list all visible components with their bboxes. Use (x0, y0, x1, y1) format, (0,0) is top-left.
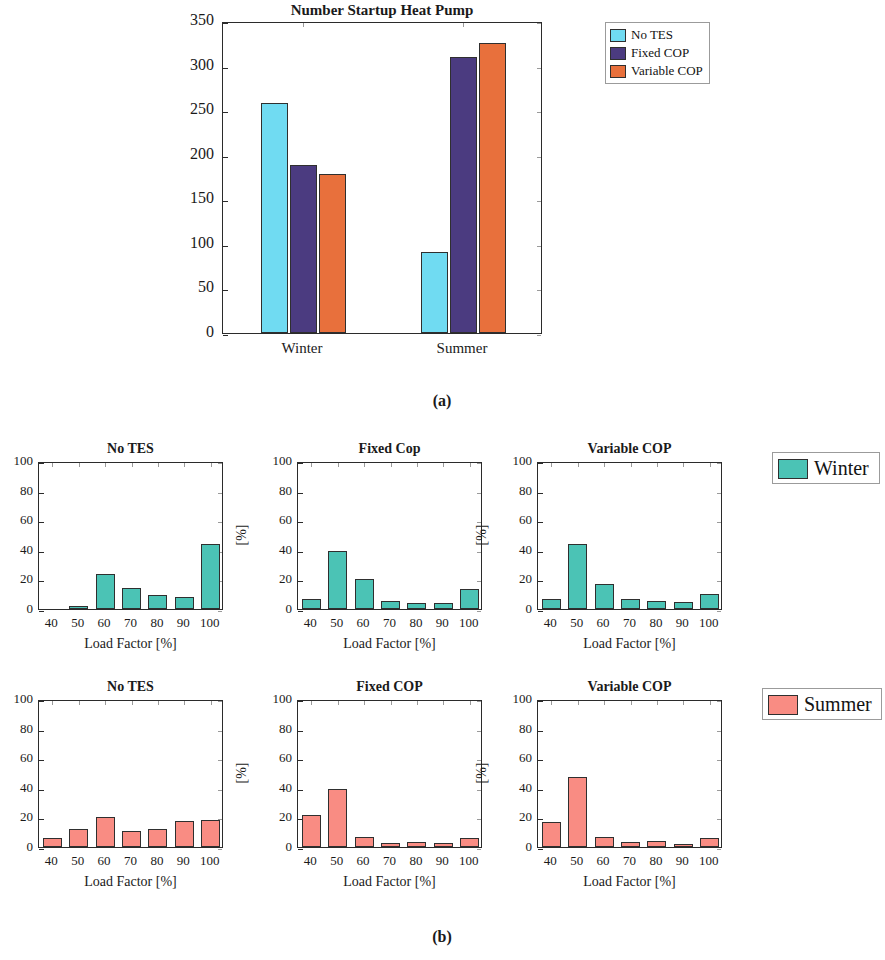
mini-ytick-mark-right (717, 522, 721, 523)
mini-xtick-mark (184, 701, 185, 705)
panel-a-ytick-mark (223, 112, 228, 113)
fixed-cop-color-swatch (610, 47, 626, 60)
panel-a-ytick-mark (223, 246, 228, 247)
mini-xtick-70: 70 (377, 615, 403, 631)
mini-xtick-60: 60 (590, 853, 616, 869)
mini-ytick-mark (39, 731, 44, 732)
panel-a-ytick-mark (223, 23, 228, 24)
mini-ytick-40: 40 (1, 542, 33, 558)
mini-xtick-mark (604, 463, 605, 467)
mini-xtick-mark (105, 701, 106, 705)
mini-xtick-mark (211, 701, 212, 705)
mini-xtick-50: 50 (65, 615, 91, 631)
mini-xlabel-summer-no-tes: Load Factor [%] (38, 874, 223, 890)
mini-ytick-80: 80 (500, 483, 532, 499)
mini-ylabel-summer-variable-cop: [%] (474, 743, 490, 803)
mini-ytick-mark-right (717, 790, 721, 791)
mini-xtick-100: 100 (197, 853, 223, 869)
mini-ytick-mark (298, 611, 303, 612)
mini-bar-winter-variable-cop-90 (674, 602, 693, 609)
mini-xtick-90: 90 (669, 615, 695, 631)
mini-ytick-mark-right (218, 760, 222, 761)
panel-a-ytick-mark-right (537, 246, 541, 247)
mini-ytick-mark (39, 581, 44, 582)
winter-color-swatch (778, 459, 808, 479)
mini-ytick-mark-right (477, 819, 481, 820)
mini-xtick-80: 80 (403, 853, 429, 869)
mini-plot-area (39, 701, 222, 847)
mini-bar-winter-no-tes-70 (122, 588, 141, 609)
mini-xtick-mark (52, 701, 53, 705)
mini-bar-winter-fixed-cop-70 (381, 601, 400, 609)
mini-bar-summer-fixed-cop-70 (381, 843, 400, 847)
mini-plot-area (298, 701, 481, 847)
mini-xtick-mark (158, 701, 159, 705)
mini-bar-summer-variable-cop-40 (542, 822, 561, 847)
mini-xtick-mark (132, 463, 133, 467)
mini-ytick-mark (298, 463, 303, 464)
mini-bar-summer-variable-cop-80 (647, 841, 666, 847)
mini-xtick-mark (631, 701, 632, 705)
mini-ytick-mark-right (477, 611, 481, 612)
mini-axes-winter-variable-cop (537, 462, 722, 610)
no-tes-color-swatch (610, 29, 626, 42)
mini-bar-summer-fixed-cop-50 (328, 789, 347, 847)
mini-ylabel-winter-variable-cop: [%] (474, 505, 490, 565)
mini-ytick-mark-right (477, 701, 481, 702)
mini-xlabel-summer-fixed-cop: Load Factor [%] (297, 874, 482, 890)
panel-a-ytick-mark-right (537, 290, 541, 291)
mini-xtick-60: 60 (590, 615, 616, 631)
mini-xtick-mark (311, 701, 312, 705)
mini-ytick-20: 20 (1, 571, 33, 587)
mini-ytick-mark (298, 493, 303, 494)
mini-ytick-mark-right (717, 701, 721, 702)
panel-a-ytick-mark-right (537, 112, 541, 113)
panel-a-ytick-50: 50 (174, 278, 214, 296)
mini-ytick-mark-right (218, 463, 222, 464)
mini-ytick-20: 20 (260, 571, 292, 587)
panel-a-xtick-winter: Winter (257, 340, 347, 357)
panel-a-plot-area (223, 23, 541, 333)
panel-a-bar-summer-no-tes (421, 252, 448, 333)
mini-xtick-70: 70 (118, 615, 144, 631)
mini-ytick-60: 60 (260, 512, 292, 528)
subfigure-b-label: (b) (412, 928, 472, 946)
mini-bar-winter-no-tes-80 (148, 595, 167, 609)
mini-ytick-100: 100 (500, 453, 532, 469)
mini-plot-area (538, 701, 721, 847)
mini-axes-summer-no-tes (38, 700, 223, 848)
mini-bar-winter-fixed-cop-100 (460, 589, 479, 609)
mini-xtick-70: 70 (377, 853, 403, 869)
mini-ytick-mark-right (717, 611, 721, 612)
mini-bar-winter-fixed-cop-80 (407, 603, 426, 609)
mini-bar-summer-fixed-cop-80 (407, 842, 426, 847)
mini-bar-winter-no-tes-90 (175, 597, 194, 609)
mini-ytick-mark (39, 819, 44, 820)
mini-xtick-50: 50 (324, 853, 350, 869)
mini-ytick-80: 80 (1, 721, 33, 737)
mini-ytick-mark-right (218, 522, 222, 523)
mini-xtick-mark (443, 463, 444, 467)
mini-ytick-mark (538, 790, 543, 791)
mini-ytick-mark-right (477, 731, 481, 732)
mini-ytick-mark (538, 760, 543, 761)
mini-ytick-mark (298, 760, 303, 761)
mini-bar-winter-fixed-cop-40 (302, 599, 321, 609)
mini-ytick-mark (538, 522, 543, 523)
mini-ytick-40: 40 (260, 780, 292, 796)
mini-xtick-100: 100 (696, 615, 722, 631)
mini-xtick-mark (657, 701, 658, 705)
mini-axes-winter-fixed-cop (297, 462, 482, 610)
mini-ytick-100: 100 (500, 691, 532, 707)
mini-ytick-80: 80 (260, 721, 292, 737)
panel-a-xtick-mark (463, 23, 464, 27)
mini-xtick-mark (604, 701, 605, 705)
mini-ytick-mark (298, 790, 303, 791)
mini-xtick-40: 40 (38, 615, 64, 631)
panel-a-ytick-mark-right (537, 335, 541, 336)
mini-ytick-0: 0 (500, 839, 532, 855)
legend-row-summer: Summer (768, 693, 876, 716)
mini-xtick-mark (132, 701, 133, 705)
mini-xtick-mark (52, 463, 53, 467)
mini-ytick-40: 40 (500, 780, 532, 796)
